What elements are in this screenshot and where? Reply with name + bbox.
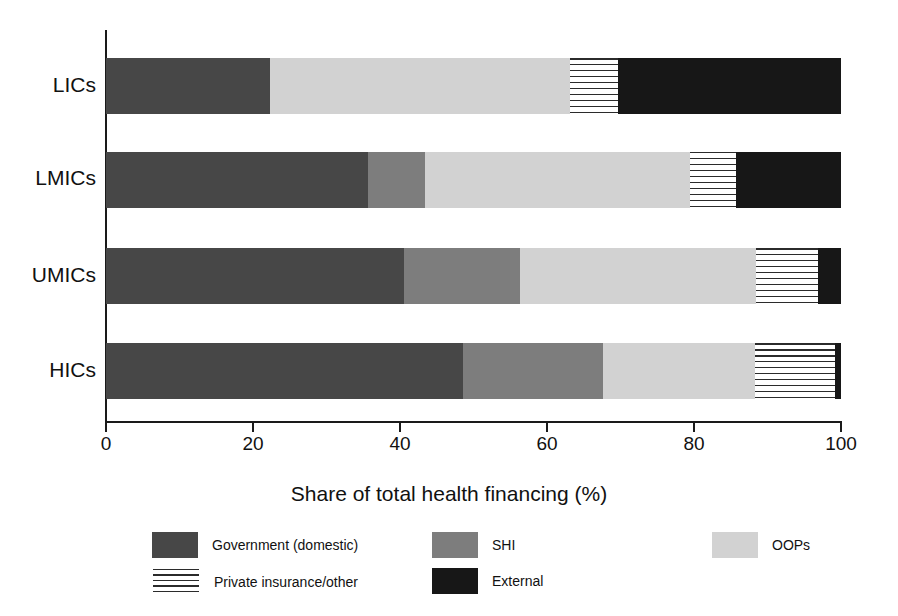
- bar-track: [106, 248, 841, 304]
- chart-legend: Government (domestic) SHI OOPs Private i…: [0, 528, 898, 604]
- bar-segment-umics-oops: [520, 248, 756, 304]
- bar-segment-lmics-external: [736, 152, 841, 208]
- bar-track: [106, 152, 841, 208]
- bar-segment-lics-private-insurance: [570, 58, 619, 114]
- x-tick-20: [252, 423, 254, 432]
- legend-label-external: External: [492, 573, 543, 589]
- bar-segment-hics-external: [835, 343, 841, 399]
- bar-row-lics: [106, 58, 841, 114]
- bar-segment-umics-private-insurance: [756, 248, 818, 304]
- x-tick-label-20: 20: [242, 433, 263, 455]
- legend-item-government: Government (domestic): [152, 532, 358, 558]
- category-label-lmics: LMICs: [0, 166, 96, 190]
- bar-segment-hics-government: [106, 343, 463, 399]
- bar-row-umics: [106, 248, 841, 304]
- x-tick-label-40: 40: [389, 433, 410, 455]
- legend-swatch-oops-icon: [712, 532, 758, 558]
- bar-segment-hics-oops: [603, 343, 755, 399]
- legend-item-external: External: [432, 568, 543, 594]
- x-axis-line: [105, 421, 842, 423]
- legend-swatch-government-icon: [152, 532, 198, 558]
- legend-label-government: Government (domestic): [212, 537, 358, 553]
- x-axis-title: Share of total health financing (%): [0, 482, 898, 506]
- bar-segment-lics-external: [618, 58, 841, 114]
- bar-segment-lics-oops: [270, 58, 570, 114]
- bar-segment-lmics-private-insurance: [690, 152, 736, 208]
- plot-area: [106, 30, 841, 420]
- legend-item-shi: SHI: [432, 532, 515, 558]
- x-tick-60: [546, 423, 548, 432]
- bar-segment-hics-private-insurance: [755, 343, 835, 399]
- legend-item-private-insurance: Private insurance/other: [152, 568, 358, 596]
- bar-segment-umics-shi: [404, 248, 520, 304]
- legend-label-oops: OOPs: [772, 537, 810, 553]
- bar-row-hics: [106, 343, 841, 399]
- category-label-hics: HICs: [0, 358, 96, 382]
- x-tick-label-60: 60: [536, 433, 557, 455]
- legend-swatch-external-icon: [432, 568, 478, 594]
- x-tick-label-100: 100: [825, 433, 857, 455]
- x-tick-0: [105, 423, 107, 432]
- legend-swatch-shi-icon: [432, 532, 478, 558]
- x-tick-80: [693, 423, 695, 432]
- bar-segment-lmics-oops: [425, 152, 690, 208]
- x-tick-40: [399, 423, 401, 432]
- legend-label-private-insurance: Private insurance/other: [214, 574, 358, 590]
- stacked-bar-chart: 0 20 40 60 80 100 LICs LMICs UMICs HICs …: [0, 0, 898, 616]
- bar-track: [106, 343, 841, 399]
- x-tick-100: [840, 423, 842, 432]
- bar-segment-umics-external: [818, 248, 841, 304]
- bar-segment-umics-government: [106, 248, 404, 304]
- bar-segment-lmics-shi: [368, 152, 425, 208]
- bar-segment-lmics-government: [106, 152, 368, 208]
- bar-segment-hics-shi: [463, 343, 603, 399]
- legend-swatch-private-insurance-icon: [152, 568, 200, 596]
- legend-item-oops: OOPs: [712, 532, 810, 558]
- bar-segment-lics-government: [106, 58, 270, 114]
- bar-row-lmics: [106, 152, 841, 208]
- legend-label-shi: SHI: [492, 537, 515, 553]
- bar-track: [106, 58, 841, 114]
- category-label-umics: UMICs: [0, 263, 96, 287]
- x-tick-label-0: 0: [101, 433, 112, 455]
- category-label-lics: LICs: [0, 73, 96, 97]
- x-tick-label-80: 80: [683, 433, 704, 455]
